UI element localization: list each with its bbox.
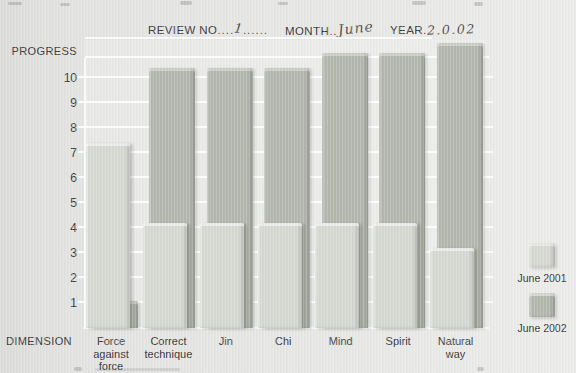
scan-artifact bbox=[477, 367, 484, 371]
x-axis-title: DIMENSION bbox=[6, 335, 72, 347]
y-tick-label-1: 1 bbox=[51, 296, 77, 310]
y-tick-label-6: 6 bbox=[51, 171, 77, 185]
x-axis-labels: Forceagainst forceCorrecttechniqueJinChi… bbox=[85, 335, 487, 365]
bar-2001-1 bbox=[143, 223, 187, 328]
review-no-dots-right: ...... bbox=[243, 24, 268, 36]
header-month: MONTH..June bbox=[285, 22, 374, 38]
x-label-2: Jin bbox=[195, 335, 257, 348]
x-label-1: Correcttechnique bbox=[137, 335, 199, 360]
bar-2001-2 bbox=[200, 223, 244, 328]
x-label-5: Spirit bbox=[367, 335, 429, 348]
y-tick-label-10: 10 bbox=[51, 71, 77, 85]
scan-artifact bbox=[60, 3, 70, 6]
x-label-0: Forceagainst force bbox=[80, 335, 142, 373]
bar-2001-5 bbox=[373, 223, 417, 328]
x-label-6: Naturalway bbox=[425, 335, 487, 360]
scan-artifact bbox=[278, 2, 288, 5]
month-handwritten-value: June bbox=[337, 18, 374, 38]
plot-area: 12345678910 bbox=[85, 40, 487, 328]
scan-artifact bbox=[474, 2, 483, 6]
review-no-dots-left: .... bbox=[217, 24, 234, 36]
legend-label-1: June 2002 bbox=[517, 322, 566, 334]
scan-artifact bbox=[180, 1, 192, 5]
y-tick-label-2: 2 bbox=[51, 271, 77, 285]
x-label-4: Mind bbox=[310, 335, 372, 348]
legend: June 2001June 2002 bbox=[514, 243, 570, 343]
review-no-label: REVIEW NO bbox=[148, 24, 217, 36]
y-tick-label-9: 9 bbox=[51, 96, 77, 110]
legend-item-1: June 2002 bbox=[517, 293, 566, 334]
legend-item-0: June 2001 bbox=[517, 243, 566, 284]
legend-swatch-1 bbox=[529, 293, 555, 317]
month-dots: .. bbox=[329, 25, 337, 37]
x-label-3: Chi bbox=[252, 335, 314, 348]
year-label: YEAR bbox=[390, 24, 423, 36]
bar-2001-3 bbox=[258, 223, 302, 328]
header-year: YEAR.2.0.02 bbox=[390, 22, 476, 37]
y-tick-label-8: 8 bbox=[51, 121, 77, 135]
legend-label-0: June 2001 bbox=[517, 272, 566, 284]
plot-top-border bbox=[85, 56, 489, 58]
bar-2001-6 bbox=[430, 248, 474, 328]
bar-2001-0 bbox=[86, 143, 130, 328]
scanned-chart-page: REVIEW NO....1...... MONTH..June YEAR.2.… bbox=[0, 0, 576, 373]
header-underline bbox=[85, 37, 432, 39]
y-axis-title: PROGRESS bbox=[6, 45, 77, 57]
y-tick-label-5: 5 bbox=[51, 196, 77, 210]
scan-artifact bbox=[412, 1, 426, 5]
y-tick-label-7: 7 bbox=[51, 146, 77, 160]
legend-swatch-0 bbox=[529, 243, 555, 267]
y-tick-label-4: 4 bbox=[51, 221, 77, 235]
year-handwritten-value: 2.0.02 bbox=[427, 21, 476, 38]
bar-2001-4 bbox=[315, 223, 359, 328]
header-review-no: REVIEW NO....1...... bbox=[148, 22, 268, 37]
scan-artifact bbox=[8, 2, 22, 5]
month-label: MONTH bbox=[285, 25, 329, 37]
y-tick-label-3: 3 bbox=[51, 246, 77, 260]
